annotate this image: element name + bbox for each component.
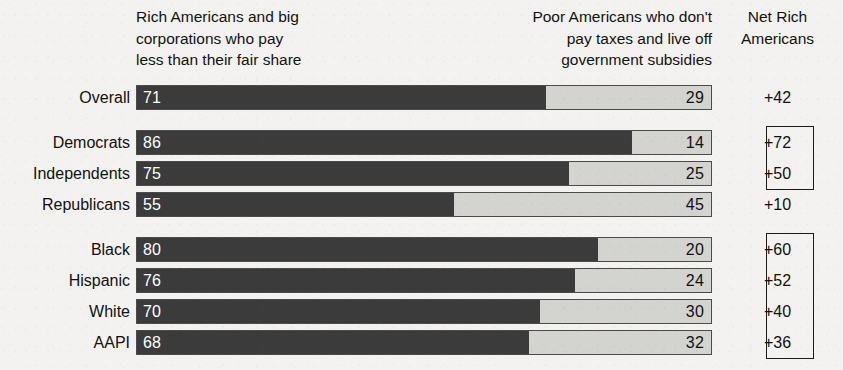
net-highlight-boxes [0, 0, 843, 370]
net-highlight-box [766, 126, 814, 190]
stacked-bar-chart: Rich Americans and big corporations who … [0, 0, 843, 370]
net-highlight-box [766, 233, 814, 359]
